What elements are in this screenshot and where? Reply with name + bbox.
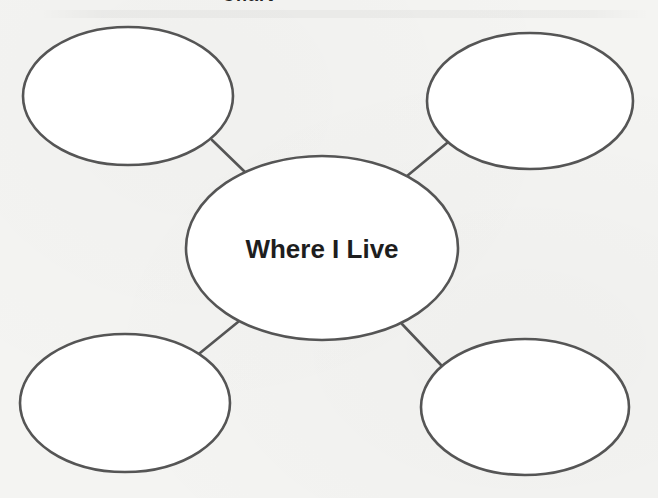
ellipse-bottom-left[interactable] — [20, 334, 230, 472]
ellipse-top-right[interactable] — [427, 33, 633, 169]
web-diagram — [0, 0, 658, 498]
connector-bottom-right — [402, 324, 441, 365]
worksheet-page: Chart Where I Live — [0, 0, 658, 498]
connector-top-right — [407, 143, 447, 176]
ellipse-center — [186, 156, 458, 340]
ellipse-top-left[interactable] — [23, 27, 233, 165]
connector-top-left — [212, 140, 246, 173]
connector-bottom-left — [200, 322, 238, 353]
ellipse-bottom-right[interactable] — [421, 339, 629, 475]
